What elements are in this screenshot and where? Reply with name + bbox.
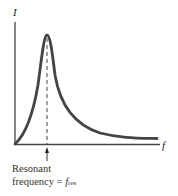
arrow-up-icon: [45, 147, 49, 153]
caption-prefix: frequency =: [12, 176, 65, 187]
resonant-frequency-caption: Resonant frequency = fres: [12, 162, 76, 190]
x-axis-label: f: [162, 139, 165, 151]
y-axis-label: I: [13, 6, 17, 18]
caption-sub: res: [68, 179, 76, 187]
caption-line1: Resonant: [12, 162, 76, 175]
caption-line2: frequency = fres: [12, 175, 76, 190]
resonance-curve: [15, 35, 157, 144]
